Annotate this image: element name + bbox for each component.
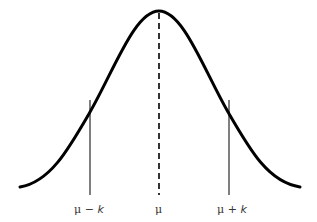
normal-curve-diagram: μ − k μ μ + k — [0, 0, 317, 222]
label-mu-minus-k: μ − k — [74, 203, 104, 216]
label-mu: μ — [155, 203, 162, 216]
label-mu-plus-k: μ + k — [217, 203, 247, 216]
bell-curve — [20, 11, 300, 187]
